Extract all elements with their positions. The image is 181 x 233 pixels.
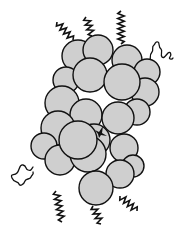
sphere (102, 102, 134, 134)
coil-spring-top-left-icon (56, 22, 73, 40)
chain-right-top-icon (150, 42, 173, 62)
molecular-cluster-diagram (0, 0, 181, 233)
sphere-cluster (31, 35, 160, 205)
sphere (59, 121, 97, 159)
chain-left-bottom-icon (11, 165, 33, 185)
coil-spring-bottom-middle-icon (91, 206, 102, 224)
coil-spring-top-right-icon (118, 11, 124, 44)
coil-spring-top-middle-icon (84, 17, 94, 36)
coil-spring-bottom-right-icon (120, 196, 137, 211)
sphere (79, 171, 113, 205)
sphere (73, 58, 107, 92)
coil-spring-bottom-left-icon (53, 191, 64, 222)
sphere (104, 64, 140, 100)
